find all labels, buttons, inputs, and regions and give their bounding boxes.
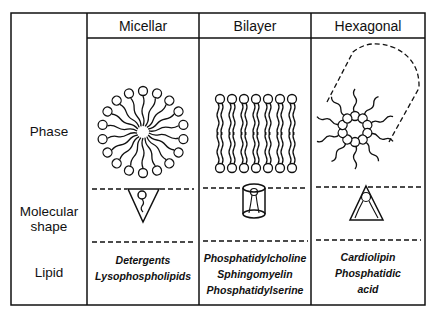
row-label-phase: Phase (11, 124, 87, 140)
lipid-name: Phosphatidylcholine (199, 250, 311, 266)
lipid-name: Sphingomyelin (199, 266, 311, 282)
lipid-name: Detergents (87, 252, 199, 268)
column-header-bilayer: Bilayer (199, 18, 311, 34)
lipids-bilayer: Phosphatidylcholine Sphingomyelin Phosph… (199, 250, 311, 298)
lipid-name: acid (311, 281, 425, 297)
lipid-name: Cardiolipin (311, 249, 425, 265)
cone-shape-icon (350, 186, 383, 220)
lipid-name: Phosphatidylserine (199, 282, 311, 298)
lipids-micellar: Detergents Lysophospholipids (87, 252, 199, 284)
hexagonal-icon (316, 44, 419, 169)
cylinder-shape-icon (243, 184, 265, 218)
row-label-molecular-shape-line2: shape (11, 219, 87, 235)
micelle-icon (97, 87, 188, 178)
column-header-hexagonal: Hexagonal (311, 18, 425, 34)
column-header-micellar: Micellar (87, 18, 199, 34)
row-label-molecular-shape-line1: Molecular (11, 204, 87, 220)
bilayer-icon (216, 95, 297, 173)
lipid-name: Phosphatidic (311, 265, 425, 281)
lipid-name: Lysophospholipids (87, 268, 199, 284)
lipids-hexagonal: Cardiolipin Phosphatidic acid (311, 249, 425, 297)
row-label-lipid: Lipid (11, 265, 87, 281)
inverted-cone-shape-icon (128, 189, 159, 222)
